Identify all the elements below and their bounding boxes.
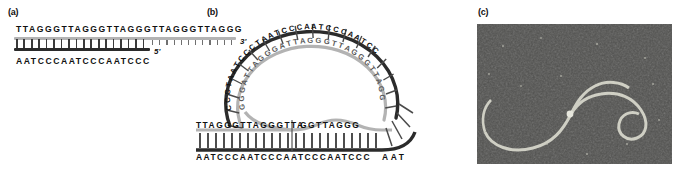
duplex-rungs-b <box>200 133 376 148</box>
electron-micrograph <box>477 24 672 164</box>
panel-c: (c) <box>470 0 690 183</box>
panel-a-bottom-sequence: AATCCCAATCCCAATCCC <box>16 56 151 66</box>
panel-a: (a) TTAGGGTTAGGGTTAGGGTTAGGGTTAGGG 3' 5'… <box>0 0 200 92</box>
duplex-c-rich-strand-b <box>196 132 415 150</box>
panel-b-tail-bottom: AAT <box>382 152 406 162</box>
loop-outer-sequence: C C C T A A T C C C T A A T C C C A A T … <box>223 22 381 112</box>
panel-b-duplex-bottom: AATCCCAATCCCAATCCCAATCCC <box>196 152 371 162</box>
panel-c-label: (c) <box>478 7 488 17</box>
loop-junction-node <box>567 111 574 118</box>
base-pair-rungs-a <box>14 39 148 48</box>
panel-b: (b) <box>196 0 466 183</box>
panel-b-duplex-top-right: GGTTAGGG <box>300 120 360 130</box>
panel-b-duplex-top-left: TTAGGGTTAGGGTTA <box>196 120 305 130</box>
panel-a-label: (a) <box>8 7 18 17</box>
five-prime-label-a: 5' <box>154 47 160 56</box>
c-rich-strand-a <box>14 48 150 51</box>
